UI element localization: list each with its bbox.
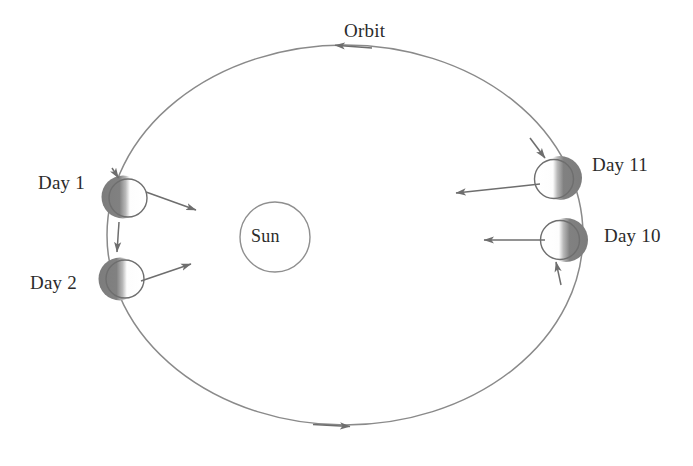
orbit-label: Orbit xyxy=(344,20,385,42)
planet-day2-orbit-arrow xyxy=(117,222,119,252)
planet-day10-disc xyxy=(544,218,588,262)
planet-day2 xyxy=(99,222,192,301)
day10-label: Day 10 xyxy=(604,225,661,247)
planet-day1-direction-arrow xyxy=(146,192,196,210)
day11-label: Day 11 xyxy=(592,154,648,176)
planet-day11 xyxy=(456,138,582,200)
planet-day10 xyxy=(484,218,588,285)
orbit-diagram-canvas: Orbit Sun Day 1 Day 2 Day 11 Day 10 xyxy=(0,0,693,466)
day2-label: Day 2 xyxy=(30,272,77,294)
planet-day11-orbit-arrow xyxy=(530,138,545,158)
day1-label: Day 1 xyxy=(38,172,85,194)
diagram-vector-layer xyxy=(0,0,693,466)
planet-day2-disc xyxy=(99,258,142,301)
orbit-path xyxy=(107,45,583,425)
planet-day11-direction-arrow xyxy=(456,184,540,193)
planet-day1 xyxy=(102,168,197,219)
planet-day10-orbit-arrow xyxy=(556,262,561,285)
sun-label: Sun xyxy=(251,226,280,247)
planet-day2-direction-arrow xyxy=(141,264,191,281)
planet-day1-orbit-arrow xyxy=(112,168,119,178)
